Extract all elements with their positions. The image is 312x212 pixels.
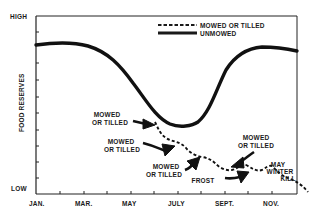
annotation-mowed-1-line2: OR TILLED	[92, 119, 128, 126]
annotation-mowed-4-line2: OR TILLED	[238, 142, 274, 149]
unmowed-curve	[36, 43, 297, 126]
y-axis-title: FOOD RESERVES	[18, 73, 25, 132]
legend-unmowed-label: UNMOWED	[200, 30, 237, 37]
x-label-sept: SEPT.	[215, 200, 234, 207]
legend-mowed-label: MOWED OR TILLED	[200, 22, 265, 29]
annotation-winter-kill-line1: MAY	[271, 161, 286, 168]
legend: MOWED OR TILLED UNMOWED	[158, 22, 265, 37]
arrow-head-icon	[143, 119, 155, 129]
annotation-frost: FROST	[191, 177, 214, 184]
x-label-july: JULY	[168, 200, 185, 207]
food-reserves-chart: HIGH LOW FOOD RESERVES JAN. MAR. MAY JUL…	[0, 0, 312, 212]
x-label-nov: NOV.	[263, 200, 279, 207]
annotation-mowed-4-line1: MOWED	[243, 134, 270, 141]
annotation-mowed-2-line2: OR TILLED	[104, 146, 140, 153]
arrow-head-icon	[237, 171, 249, 183]
annotation-winter-kill-line3: KILL	[280, 175, 295, 182]
arrow-icon	[225, 177, 240, 178]
arrow-head-icon	[162, 144, 175, 156]
x-label-jan: JAN.	[29, 200, 45, 207]
y-low-label: LOW	[11, 185, 27, 192]
y-high-label: HIGH	[10, 13, 27, 20]
annotation-mowed-3-line1: MOWED	[153, 163, 180, 170]
arrow-head-icon	[231, 157, 244, 168]
annotation-mowed-2-line1: MOWED	[108, 138, 135, 145]
annotation-mowed-1-line1: MOWED	[94, 111, 121, 118]
annotation-winter-kill-line2: WINTER	[267, 168, 294, 175]
x-label-mar: MAR.	[75, 200, 92, 207]
annotation-labels: MOWED OR TILLED MOWED OR TILLED MOWED OR…	[92, 111, 296, 184]
x-label-may: MAY	[122, 200, 137, 207]
annotation-mowed-3-line2: OR TILLED	[146, 171, 182, 178]
